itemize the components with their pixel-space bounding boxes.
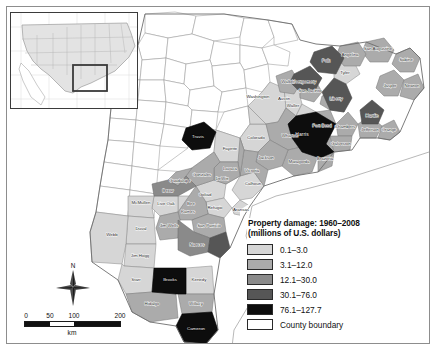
label-refugio: Refugio xyxy=(207,205,223,210)
label-fayette: Fayette xyxy=(223,146,238,151)
legend-swatch-class-1 xyxy=(247,259,273,270)
scale-segment-2 xyxy=(50,322,74,326)
label-tyler: Tyler xyxy=(340,70,350,75)
label-kenedy: Kenedy xyxy=(192,277,208,282)
scale-bar-segments xyxy=(24,321,121,327)
label-washington: Washington xyxy=(246,94,270,99)
legend-item-class-1[interactable]: 3.1–12.0 xyxy=(247,258,397,272)
scale-tick-50: 50 xyxy=(46,312,53,319)
inset-locator-map xyxy=(10,12,138,109)
label-nueces: Nueces xyxy=(190,242,206,247)
legend-swatch-class-2 xyxy=(247,274,273,285)
label-chambers: Chambers xyxy=(335,124,356,129)
label-lavaca: Lavaca xyxy=(223,166,238,171)
compass-north-label: N xyxy=(52,262,94,269)
label-jim-hogg: Jim Hogg xyxy=(131,253,150,258)
label-willacy: Willacy xyxy=(189,301,204,306)
label-liberty: Liberty xyxy=(329,96,343,101)
label-aransas: Aransas xyxy=(233,207,250,212)
label-goliad: Goliad xyxy=(199,192,212,197)
label-travis: Travis xyxy=(192,134,205,139)
label-fort-bend: Fort Bend xyxy=(312,123,332,128)
label-san-patricio: San Patricio xyxy=(197,223,221,228)
label-guadalupe: Guadalupe xyxy=(169,178,191,183)
label-live-oak: Live Oak xyxy=(157,201,175,206)
label-mcmullen: McMullen xyxy=(132,200,151,205)
compass-star-icon xyxy=(52,262,94,310)
label-karnes: Karnes xyxy=(181,209,196,214)
label-hardin: Hardin xyxy=(366,113,379,118)
legend-label-class-0: 0.1–3.0 xyxy=(280,245,308,255)
legend-swatch-class-0 xyxy=(247,244,273,255)
label-sabine: Sabine xyxy=(399,57,413,62)
label-victoria: Victoria xyxy=(245,168,260,173)
legend-swatch-class-4 xyxy=(247,304,273,315)
scale-bar-unit: km xyxy=(24,329,120,336)
compass-rose: N xyxy=(52,262,94,310)
label-dewitt: DeWitt xyxy=(215,176,229,181)
label-jim-wells: Jim Wells xyxy=(160,223,180,228)
label-brooks: Brooks xyxy=(163,277,177,282)
label-san-augustine: San Augustine xyxy=(364,46,393,51)
label-jefferson: Jefferson xyxy=(361,127,380,132)
label-jasper: Jasper xyxy=(383,83,397,88)
label-hidalgo: Hidalgo xyxy=(145,301,160,306)
label-angelina: Angelina xyxy=(341,52,359,57)
label-galveston: Galveston xyxy=(331,141,351,146)
label-colorado: Colorado xyxy=(247,135,265,140)
label-bee: Bee xyxy=(187,201,195,206)
label-orange: Orange xyxy=(382,127,397,132)
legend-item-class-4[interactable]: 76.1–127.7 xyxy=(247,303,397,317)
label-calhoun: Calhoun xyxy=(245,181,262,186)
label-jackson: Jackson xyxy=(258,155,275,160)
scale-bar-ticks: 0 50 100 200 xyxy=(24,312,134,321)
label-newton: Newton xyxy=(405,83,420,88)
inset-usa-svg xyxy=(11,13,138,109)
property-damage-choropleth-map: Harris Travis Brooks Cameron Montgomery … xyxy=(0,0,437,364)
legend-item-class-0[interactable]: 0.1–3.0 xyxy=(247,243,397,257)
legend-label-class-2: 12.1–30.0 xyxy=(280,275,317,285)
legend-title-line2: (millions of U.S. dollars) xyxy=(248,228,397,238)
scale-tick-0: 0 xyxy=(24,312,28,319)
county-hardin xyxy=(360,100,384,124)
label-webb: Webb xyxy=(106,232,118,237)
legend-title-line1: Property damage: 1960–2008 xyxy=(248,218,397,228)
map-legend: Property damage: 1960–2008 (millions of … xyxy=(247,218,397,340)
label-wharton: Wharton xyxy=(282,133,299,138)
legend-swatch-class-3 xyxy=(247,289,273,300)
scale-segment-3 xyxy=(74,322,120,326)
legend-swatch-county-boundary xyxy=(247,319,273,330)
scale-tick-100: 100 xyxy=(68,312,79,319)
scale-tick-200: 200 xyxy=(114,312,125,319)
legend-item-class-2[interactable]: 12.1–30.0 xyxy=(247,273,397,287)
label-cameron: Cameron xyxy=(187,326,206,331)
label-san-jacinto: San Jacinto xyxy=(299,88,323,93)
label-duval: Duval xyxy=(135,226,146,231)
label-polk: Polk xyxy=(322,58,331,63)
legend-label-class-3: 30.1–76.0 xyxy=(280,290,317,300)
label-gonzales: Gonzales xyxy=(193,172,212,177)
legend-item-class-3[interactable]: 30.1–76.0 xyxy=(247,288,397,302)
label-austin: Austin xyxy=(278,96,291,101)
label-matagorda: Matagorda xyxy=(289,159,311,164)
legend-item-county-boundary[interactable]: County boundary xyxy=(247,318,397,332)
scale-bar: 0 50 100 200 km xyxy=(24,312,134,336)
legend-label-county-boundary: County boundary xyxy=(280,320,343,330)
label-montgomery: Montgomery xyxy=(292,79,317,84)
label-bexar: Bexar xyxy=(162,188,174,193)
scale-segment-1 xyxy=(25,322,50,326)
label-walker: Walker xyxy=(281,79,295,84)
label-waller: Waller xyxy=(287,103,300,108)
legend-label-class-4: 76.1–127.7 xyxy=(280,305,322,315)
label-starr: Starr xyxy=(131,277,141,282)
label-brazoria: Brazoria xyxy=(317,156,334,161)
county-webb xyxy=(90,212,128,264)
legend-label-class-1: 3.1–12.0 xyxy=(280,260,312,270)
